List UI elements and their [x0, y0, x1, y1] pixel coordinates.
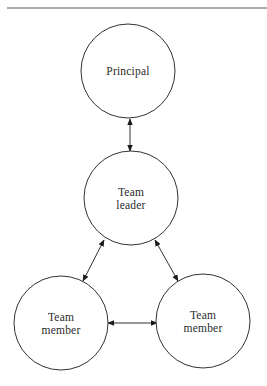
- bidirectional-arrow-team-leader-team-member-left: [83, 240, 104, 281]
- node-label: Team: [190, 309, 216, 321]
- node-team-member-right: Teammember: [156, 274, 250, 368]
- bidirectional-arrow-team-leader-team-member-right: [155, 240, 178, 281]
- node-label: member: [184, 322, 223, 334]
- nodes: PrincipalTeamleaderTeammemberTeammember: [14, 24, 250, 370]
- node-label: Principal: [106, 65, 149, 78]
- node-principal: Principal: [81, 24, 175, 118]
- team-structure-diagram: PrincipalTeamleaderTeammemberTeammember: [0, 0, 267, 386]
- node-label: Team: [118, 186, 144, 198]
- node-team-leader: Teamleader: [84, 151, 178, 245]
- node-label: member: [42, 324, 81, 336]
- node-team-member-left: Teammember: [14, 276, 108, 370]
- node-label: Team: [48, 311, 74, 323]
- node-label: leader: [116, 199, 145, 211]
